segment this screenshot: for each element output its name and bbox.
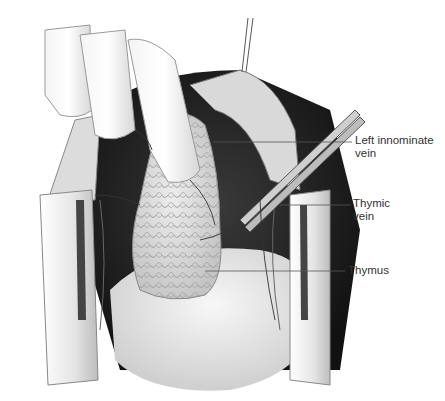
label-thymic-vein: Thymic vein [353,197,390,222]
label-line: Left innominate [355,134,434,147]
label-line: Thymic [353,197,390,210]
label-thymus: Thymus [348,264,389,277]
label-line: vein [353,210,390,223]
label-line: vein [355,147,434,160]
label-line: Thymus [348,264,389,277]
label-left-innominate-vein: Left innominate vein [355,134,434,159]
